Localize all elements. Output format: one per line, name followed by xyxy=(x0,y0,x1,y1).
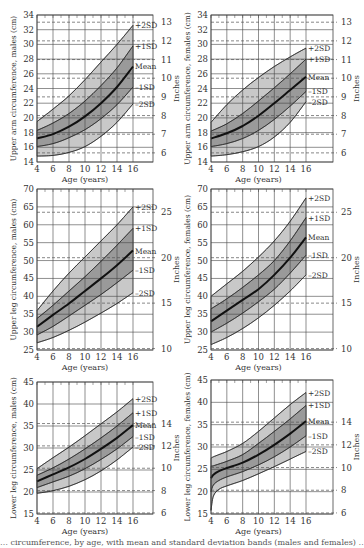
y-axis-label: Lower leg circumference, males (cm) xyxy=(9,377,18,519)
y-tick-label: 26 xyxy=(197,69,208,79)
x-tick-label: 12 xyxy=(96,352,107,362)
y-tick-label: 40 xyxy=(23,399,34,409)
inches-tick-label: 12 xyxy=(161,441,172,451)
chart-upper-leg-males: 101520252530354045505560657046810121416A… xyxy=(9,184,181,372)
inches-tick-label: 15 xyxy=(341,298,352,308)
inches-tick-label: 10 xyxy=(161,73,172,83)
series-label: +1SD xyxy=(308,214,330,223)
y-tick-label: 45 xyxy=(23,273,34,283)
series-label: +1SD xyxy=(135,224,157,233)
series-label: –1SD xyxy=(135,433,155,442)
y-tick-label: 35 xyxy=(197,420,208,430)
y-tick-label: 65 xyxy=(197,202,208,212)
y-tick-label: 15 xyxy=(197,509,208,519)
inches-tick-label: 6 xyxy=(341,148,346,158)
x-tick-label: 12 xyxy=(96,164,107,174)
x-tick-label: 4 xyxy=(34,516,39,526)
x-axis-label: Age (years) xyxy=(61,363,108,372)
y-tick-label: 30 xyxy=(197,39,208,49)
y-tick-label: 55 xyxy=(197,238,208,248)
x-axis-label: Age (years) xyxy=(61,175,108,184)
inches-tick-label: 8 xyxy=(341,111,346,121)
series-label: +2SD xyxy=(308,44,330,53)
series-label: +1SD xyxy=(135,42,157,51)
series-label: +2SD xyxy=(135,395,157,404)
y-tick-label: 20 xyxy=(197,487,208,497)
inches-tick-label: 6 xyxy=(161,508,166,518)
y-tick-label: 25 xyxy=(23,465,34,475)
series-label: –2SD xyxy=(135,289,155,298)
chart-lower-leg-males: 681012141520253035404546810121416Age (ye… xyxy=(9,377,181,536)
y-tick-label: 16 xyxy=(23,142,34,152)
series-label: –2SD xyxy=(135,100,155,109)
inches-tick-label: 14 xyxy=(341,417,352,427)
inches-tick-label: 6 xyxy=(161,148,166,158)
y-tick-label: 30 xyxy=(23,39,34,49)
x-tick-label: 10 xyxy=(253,164,264,174)
inches-tick-label: 8 xyxy=(161,486,166,496)
y2-axis-label: Inches xyxy=(352,256,361,283)
chart-lower-leg-females: 681012141520253035404546810121416Age (ye… xyxy=(183,372,361,536)
y-tick-label: 22 xyxy=(23,98,34,108)
inches-tick-label: 7 xyxy=(161,129,166,139)
x-tick-label: 14 xyxy=(112,516,123,526)
x-tick-label: 12 xyxy=(96,516,107,526)
inches-tick-label: 11 xyxy=(161,55,172,65)
chart-upper-leg-females: 101520252530354045505560657046810121416A… xyxy=(183,184,361,372)
y-tick-label: 45 xyxy=(197,375,208,385)
y-tick-label: 50 xyxy=(23,256,34,266)
y-tick-label: 28 xyxy=(197,54,208,64)
y-axis-label: Upper leg circumference, females (cm) xyxy=(183,195,192,344)
y-tick-label: 30 xyxy=(23,327,34,337)
inches-tick-label: 15 xyxy=(161,298,172,308)
x-axis-label: Age (years) xyxy=(234,363,281,372)
y-tick-label: 18 xyxy=(23,128,34,138)
y-tick-label: 25 xyxy=(197,464,208,474)
y-tick-label: 45 xyxy=(197,273,208,283)
series-label: –1SD xyxy=(135,266,155,275)
y-tick-label: 50 xyxy=(197,256,208,266)
y-tick-label: 60 xyxy=(197,220,208,230)
y2-axis-label: Inches xyxy=(172,75,181,102)
x-tick-label: 12 xyxy=(269,516,280,526)
y-tick-label: 24 xyxy=(197,84,208,94)
inches-tick-label: 10 xyxy=(341,344,352,354)
y2-axis-label: Inches xyxy=(352,434,361,461)
y-tick-label: 24 xyxy=(23,84,34,94)
y-tick-label: 30 xyxy=(197,327,208,337)
series-label: Mean xyxy=(135,62,157,71)
y-tick-label: 35 xyxy=(23,309,34,319)
y-tick-label: 16 xyxy=(197,142,208,152)
y-tick-label: 65 xyxy=(23,202,34,212)
y-tick-label: 30 xyxy=(23,443,34,453)
inches-tick-label: 10 xyxy=(161,344,172,354)
x-tick-label: 4 xyxy=(208,352,213,362)
x-tick-label: 12 xyxy=(269,352,280,362)
inches-tick-label: 14 xyxy=(161,419,172,429)
x-tick-label: 10 xyxy=(80,516,91,526)
x-tick-label: 6 xyxy=(50,516,55,526)
series-label: –1SD xyxy=(308,87,328,96)
inches-tick-label: 6 xyxy=(341,508,346,518)
x-axis-label: Age (years) xyxy=(234,527,281,536)
series-label: –1SD xyxy=(308,251,328,260)
series-label: –2SD xyxy=(308,271,328,280)
series-label: +1SD xyxy=(308,401,330,410)
series-label: –2SD xyxy=(135,443,155,452)
inches-tick-label: 10 xyxy=(161,463,172,473)
series-label: Mean xyxy=(308,233,330,242)
y-tick-label: 25 xyxy=(23,345,34,355)
inches-tick-label: 13 xyxy=(161,17,172,27)
y-tick-label: 14 xyxy=(197,157,208,167)
x-tick-label: 10 xyxy=(253,352,264,362)
y-tick-label: 40 xyxy=(197,291,208,301)
x-tick-label: 16 xyxy=(128,164,139,174)
x-tick-label: 8 xyxy=(240,516,245,526)
y-axis-label: Upper arm circumference, males (cm) xyxy=(9,16,18,162)
y-tick-label: 34 xyxy=(197,10,208,20)
y-tick-label: 40 xyxy=(23,291,34,301)
y2-axis-label: Inches xyxy=(172,435,181,462)
figure-caption: … circumference, by age, with mean and s… xyxy=(0,538,364,548)
inches-tick-label: 12 xyxy=(341,36,352,46)
